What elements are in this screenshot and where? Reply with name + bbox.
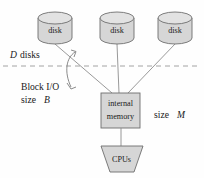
d-disks-symbol: D [9,49,17,60]
disk-right-top [158,12,192,24]
cpus-node: CPUs [101,146,143,172]
diagram-canvas: disk disk disk internal memory [0,0,204,178]
d-disks-text: disks [20,49,40,60]
disk-left-label: disk [48,26,63,35]
connector-right-disk [128,44,175,93]
disk-memory-connectors [55,44,175,93]
memory-size-text: size [154,109,169,120]
disk-left-top [38,12,72,24]
block-io-arrow-head-bottom [67,83,76,89]
connector-left-disk [55,44,112,93]
internal-memory-node: internal memory [101,93,140,128]
annotation-d-disks: D disks [9,49,40,60]
disk-left: disk [38,12,72,44]
disk-right-label: disk [168,26,183,35]
annotation-memory-size: size M [154,109,186,120]
block-io-size-text: size [21,94,36,105]
annotation-block-io: Block I/O size B [21,81,59,105]
internal-memory-label-line1: internal [108,99,134,108]
block-io-line1: Block I/O [21,81,59,92]
internal-memory-label-line2: memory [107,112,135,121]
disk-right: disk [158,12,192,44]
memory-size-symbol: M [176,109,186,120]
disk-middle: disk [100,12,134,44]
block-io-size-symbol: B [44,94,50,105]
cpus-label: CPUs [112,155,131,164]
disk-middle-label: disk [110,26,125,35]
connector-middle-disk [117,44,119,93]
disk-middle-top [100,12,134,24]
pdm-diagram: disk disk disk internal memory [0,0,204,178]
